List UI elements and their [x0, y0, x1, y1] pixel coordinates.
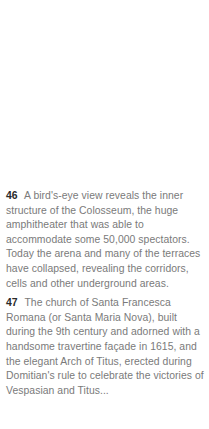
caption-number: 47	[6, 297, 18, 308]
caption-number: 46	[6, 190, 18, 201]
caption-text: The church of Santa Francesca Romana (or…	[6, 297, 204, 396]
caption-47: 47 The church of Santa Francesca Romana …	[6, 296, 206, 398]
caption-46: 46 A bird's-eye view reveals the inner s…	[6, 189, 206, 291]
caption-text: A bird's-eye view reveals the inner stru…	[6, 190, 200, 289]
caption-column: 46 A bird's-eye view reveals the inner s…	[6, 189, 206, 403]
